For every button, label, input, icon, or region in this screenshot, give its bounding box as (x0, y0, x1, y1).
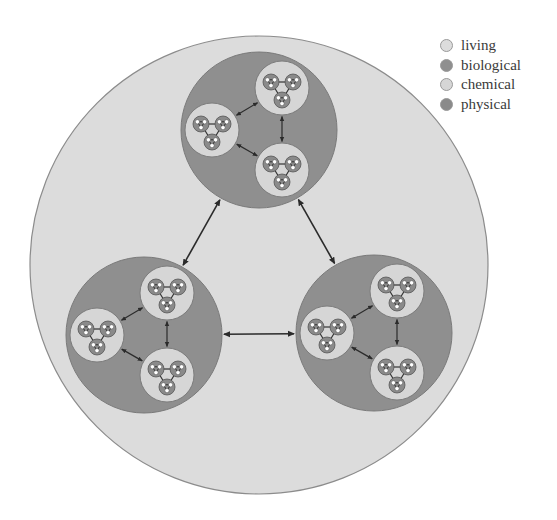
physical-circle (378, 359, 394, 375)
chemical-circle (300, 306, 354, 360)
physical-circle (274, 92, 290, 108)
legend-item-chemical: chemical (440, 75, 521, 95)
physical-circle (285, 74, 301, 90)
physical-circle (378, 277, 394, 293)
legend-item-physical: physical (440, 95, 521, 115)
physical-circle (148, 361, 164, 377)
biological-circle (66, 257, 222, 413)
chemical-circle (185, 103, 239, 157)
physical-circle (215, 116, 231, 132)
physical-circle (330, 319, 346, 335)
physical-circle (193, 116, 209, 132)
biological-swatch-icon (440, 59, 453, 72)
physical-circle (400, 277, 416, 293)
legend-item-biological: biological (440, 56, 521, 76)
legend-label-biological: biological (461, 57, 521, 74)
chemical-circle (255, 61, 309, 115)
legend-label-physical: physical (461, 96, 511, 113)
physical-circle (400, 359, 416, 375)
chemical-circle (140, 266, 194, 320)
physical-circle (89, 339, 105, 355)
legend-item-living: living (440, 36, 521, 56)
physical-circle (100, 321, 116, 337)
physical-circle (389, 377, 405, 393)
legend-label-living: living (461, 37, 496, 54)
physical-circle (285, 156, 301, 172)
chemical-circle (370, 264, 424, 318)
double-arrow (224, 334, 294, 335)
biological-circle (296, 255, 452, 411)
physical-circle (263, 74, 279, 90)
physical-circle (148, 279, 164, 295)
physical-swatch-icon (440, 98, 453, 111)
biological-circle (181, 52, 337, 208)
chemical-circle (70, 308, 124, 362)
legend-label-chemical: chemical (461, 76, 515, 93)
physical-circle (274, 174, 290, 190)
chemical-circle (255, 143, 309, 197)
chemical-circle (370, 346, 424, 400)
legend: living biological chemical physical (440, 36, 521, 114)
physical-circle (204, 134, 220, 150)
physical-circle (308, 319, 324, 335)
physical-circle (159, 379, 175, 395)
physical-circle (78, 321, 94, 337)
physical-circle (263, 156, 279, 172)
chemical-circle (140, 348, 194, 402)
physical-circle (170, 279, 186, 295)
chemical-swatch-icon (440, 78, 453, 91)
physical-circle (389, 295, 405, 311)
living-swatch-icon (440, 39, 453, 52)
physical-circle (319, 337, 335, 353)
physical-circle (159, 297, 175, 313)
physical-circle (170, 361, 186, 377)
